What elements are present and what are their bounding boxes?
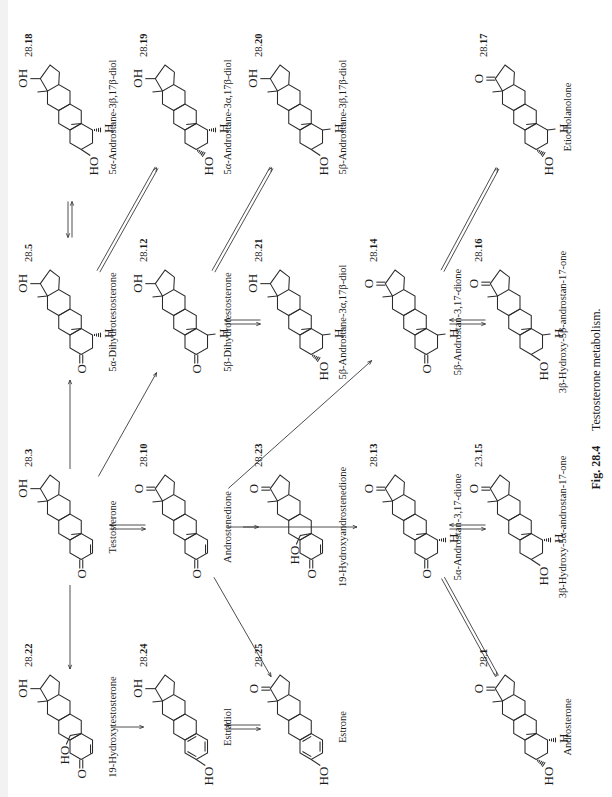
ring-d bbox=[270, 270, 289, 296]
ring-d bbox=[155, 270, 174, 296]
compound-name: 5α-Androstane-3α,17β-diol bbox=[222, 59, 233, 174]
hydroxyl-label: HO bbox=[316, 157, 331, 176]
ring-c bbox=[47, 695, 70, 721]
ring-d bbox=[40, 65, 59, 91]
oxygen-label: O bbox=[466, 484, 481, 493]
hydroxyl-label: HO bbox=[541, 767, 556, 786]
reaction-28-10-to-28-14 bbox=[228, 361, 371, 489]
compound-name: 5α-Androstane-3β,17β-diol bbox=[107, 59, 118, 174]
hydroxyl-label: OH bbox=[15, 69, 30, 88]
methyl-bond bbox=[487, 296, 497, 297]
methyl-bond bbox=[37, 501, 47, 502]
aromatic-bond bbox=[187, 752, 196, 757]
oxygen-label: O bbox=[189, 364, 204, 373]
ring-d bbox=[490, 270, 509, 296]
hashed-bond bbox=[537, 150, 538, 152]
ring-b bbox=[174, 104, 197, 130]
ring-c bbox=[497, 495, 520, 521]
ring-d bbox=[155, 675, 174, 701]
methyl-bond bbox=[492, 701, 502, 702]
ring-d bbox=[385, 270, 404, 296]
ring-a bbox=[415, 534, 438, 560]
oxygen-label: O bbox=[304, 569, 319, 578]
compound-28-25: HOO28.25Estrone bbox=[246, 643, 348, 785]
hydroxyl-label: HO bbox=[316, 767, 331, 786]
ring-d bbox=[490, 475, 509, 501]
compound-name: 19-Hydroxytestosterone bbox=[107, 676, 118, 778]
oxygen-label: O bbox=[189, 569, 204, 578]
hydroxyl-label: HO bbox=[86, 157, 101, 176]
reaction-arrows bbox=[66, 167, 499, 731]
figure-stage: OHOOH28.2219-HydroxytestosteroneOOH28.3T… bbox=[0, 0, 612, 797]
compound-name: 19-Hydroxyandrostenedione bbox=[337, 467, 348, 587]
oxygen-label: O bbox=[361, 484, 376, 493]
hydroxyl-label: HO bbox=[201, 157, 216, 176]
ring-d bbox=[270, 675, 289, 701]
methyl-bond bbox=[382, 501, 392, 502]
methyl-bond bbox=[382, 296, 392, 297]
hydroxyl-bond bbox=[311, 150, 320, 156]
ring-b bbox=[509, 309, 532, 335]
reaction-28-3-to-28-22 bbox=[68, 585, 71, 669]
ring-b bbox=[59, 309, 82, 335]
methyl-bond bbox=[152, 701, 162, 702]
svg-text:Fig. 28.4 Testosterone: Fig. 28.4 Testosterone metabolism. bbox=[589, 309, 603, 490]
hashed-bond bbox=[200, 151, 202, 154]
oxygen-label: O bbox=[246, 484, 261, 493]
oxygen-label: O bbox=[471, 684, 486, 693]
oxygen-label: O bbox=[419, 364, 434, 373]
ring-c bbox=[277, 695, 300, 721]
methyl-bond bbox=[152, 501, 162, 502]
hydroxyl-bond bbox=[531, 560, 540, 566]
ring-b bbox=[289, 104, 312, 130]
oxygen-label: O bbox=[74, 364, 89, 373]
ring-a bbox=[525, 124, 548, 150]
oxygen-label: O bbox=[466, 279, 481, 288]
compound-number: 28.20 bbox=[253, 33, 264, 57]
oxygen-label: O bbox=[246, 684, 261, 693]
ring-d bbox=[495, 65, 514, 91]
ring-d bbox=[40, 475, 59, 501]
ring-a bbox=[520, 329, 543, 355]
hashed-bond bbox=[540, 761, 542, 764]
compound-28-5: OHOH28.55α-Dihydrotestosterone bbox=[15, 244, 118, 374]
compound-name: 5β-Androstan-3,17-dione bbox=[452, 268, 463, 375]
compound-name: Estrone bbox=[337, 711, 348, 743]
hydrogen-bond bbox=[548, 129, 556, 130]
oxygen-label: O bbox=[74, 569, 89, 578]
hashed-bond bbox=[538, 760, 540, 762]
methyl-bond bbox=[152, 91, 162, 92]
hydroxyl-label: OH bbox=[245, 69, 260, 88]
ring-a bbox=[525, 734, 548, 760]
oxygen-label: O bbox=[361, 279, 376, 288]
ring-a bbox=[300, 534, 323, 560]
compound-28-10: OO28.10Androstenedione bbox=[131, 443, 233, 578]
hydroxyl-label: OH bbox=[15, 274, 30, 293]
ring-a bbox=[520, 534, 543, 560]
ring-c bbox=[162, 85, 185, 111]
compound-number: 28.5 bbox=[23, 244, 34, 262]
hydroxyl-label: OH bbox=[130, 274, 145, 293]
compound-28-13: OHO28.135α-Androstan-3,17-dione bbox=[361, 443, 463, 580]
ring-c bbox=[497, 290, 520, 316]
ring-c bbox=[502, 85, 525, 111]
oxygen-label: O bbox=[131, 484, 146, 493]
compound-name: 5β-Dihydrotestosterone bbox=[222, 272, 233, 372]
arrow-line bbox=[441, 167, 496, 270]
ring-b bbox=[514, 104, 537, 130]
ring-b bbox=[514, 714, 537, 740]
ring-d bbox=[40, 270, 59, 296]
compound-name: 5β-Androstane-3α,17β-diol bbox=[337, 264, 348, 379]
hashed-bond bbox=[537, 760, 538, 762]
ring-b bbox=[59, 514, 82, 540]
compound-28-20: HOHOH28.205β-Androstane-3β,17β-diol bbox=[245, 33, 348, 175]
compound-number: 28.1 bbox=[478, 649, 489, 667]
ring-d bbox=[155, 475, 174, 501]
aromatic-bond bbox=[187, 736, 196, 741]
compound-28-12: OHOH28.125β-Dihydrotestosterone bbox=[130, 238, 233, 373]
ring-d bbox=[155, 65, 174, 91]
hydroxyl-bond bbox=[81, 150, 90, 156]
figure-number: Fig. 28.4 bbox=[589, 446, 603, 490]
ring-a bbox=[300, 124, 323, 150]
methyl-bond bbox=[267, 296, 277, 297]
